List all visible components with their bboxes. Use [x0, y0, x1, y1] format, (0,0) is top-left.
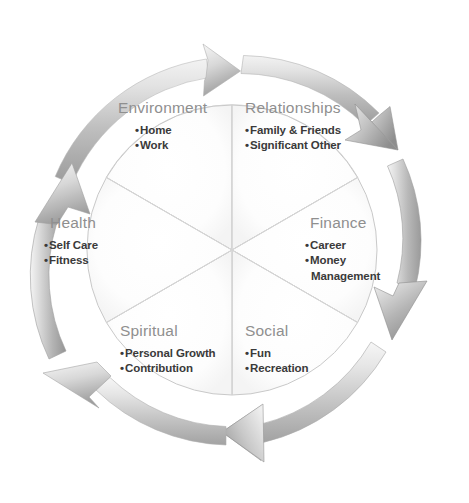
item-label: Significant Other [250, 139, 341, 151]
arrow-top-head [203, 44, 241, 96]
arrow-bottom-head-tip [222, 404, 264, 462]
list-item: •Home [135, 123, 172, 138]
item-label: Career [310, 239, 346, 251]
list-item: •Work [135, 138, 172, 153]
segment-items-spiritual: •Personal Growth •Contribution [120, 346, 216, 377]
item-label: Contribution [125, 362, 193, 374]
item-label: Home [140, 124, 172, 136]
list-item: •Self Care [44, 238, 98, 253]
segment-items-finance: •Career •Money Management [305, 238, 397, 284]
item-label: Family & Friends [250, 124, 341, 136]
list-item: •Personal Growth [120, 346, 216, 361]
list-item: •Contribution [120, 361, 216, 376]
arrow-lower-right-head [374, 281, 427, 340]
segment-label-environment: Environment [118, 99, 207, 116]
segment-label-spiritual: Spiritual [120, 322, 178, 339]
item-label: Fitness [49, 254, 89, 266]
item-label: Fun [250, 347, 271, 359]
segment-label-health: Health [50, 214, 96, 231]
list-item: •Family & Friends [245, 123, 341, 138]
list-item: •Recreation [245, 361, 308, 376]
item-label: Personal Growth [125, 347, 216, 359]
segment-label-relationships: Relationships [245, 99, 341, 116]
segment-items-environment: •Home •Work [135, 123, 172, 154]
segment-items-relationships: •Family & Friends •Significant Other [245, 123, 341, 154]
list-item: •Fitness [44, 253, 98, 268]
item-label: Work [140, 139, 168, 151]
segment-items-social: •Fun •Recreation [245, 346, 308, 377]
segment-label-finance: Finance [310, 214, 367, 231]
item-label: Recreation [250, 362, 308, 374]
list-item: •Fun [245, 346, 308, 361]
list-item: •Career [305, 238, 397, 253]
list-item: •Significant Other [245, 138, 341, 153]
segment-label-social: Social [245, 322, 288, 339]
segment-items-health: •Self Care •Fitness [44, 238, 98, 269]
item-label: Self Care [49, 239, 98, 251]
item-label: Money Management [310, 254, 380, 281]
list-item: •Money Management [305, 253, 397, 284]
arrow-lower-left-head [43, 362, 111, 408]
life-balance-wheel-diagram: Environment •Home •Work Relationships •F… [0, 0, 469, 503]
